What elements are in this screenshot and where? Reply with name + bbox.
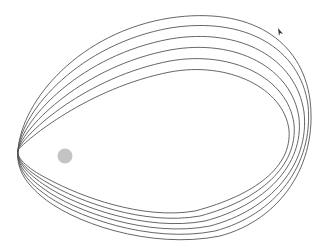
central-body [58,149,73,164]
orbit-canvas [0,0,329,248]
direction-arrow-icon [278,28,283,36]
orbit-paths [18,16,311,240]
orbit-path-6 [18,70,289,213]
orbit-path-2 [18,25,309,234]
orbit-path-1 [18,16,311,240]
orbit-path-3 [18,36,305,229]
orbit-diagram [0,0,329,248]
